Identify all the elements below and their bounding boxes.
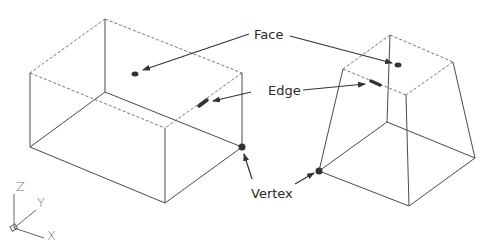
face-arrow-left	[143, 34, 249, 70]
vertex-arrow-left	[244, 154, 252, 179]
face-marker-right	[395, 63, 402, 68]
leader-arrows	[143, 34, 392, 184]
vertex-marker-right	[316, 168, 323, 175]
face-label: Face	[254, 28, 283, 41]
edge-arrow-left	[213, 92, 251, 101]
axis-z-label: Z	[16, 180, 25, 193]
axis-x-label: X	[47, 229, 56, 242]
face-marker-left	[132, 72, 139, 77]
vertex-label: Vertex	[251, 187, 293, 200]
vertex-arrow-right	[295, 173, 314, 184]
edge-marker-left	[199, 100, 207, 106]
diagram-canvas: Face Edge Vertex Z Y X	[0, 0, 488, 249]
wireframe-drawing	[0, 0, 488, 249]
axis-y-label: Y	[37, 196, 45, 209]
edge-label: Edge	[268, 84, 301, 97]
edge-marker-right	[371, 81, 380, 85]
edge-arrow-right	[303, 84, 365, 90]
truncated-pyramid	[319, 35, 475, 206]
face-arrow-right	[290, 36, 392, 63]
vertex-marker-left	[239, 144, 246, 151]
